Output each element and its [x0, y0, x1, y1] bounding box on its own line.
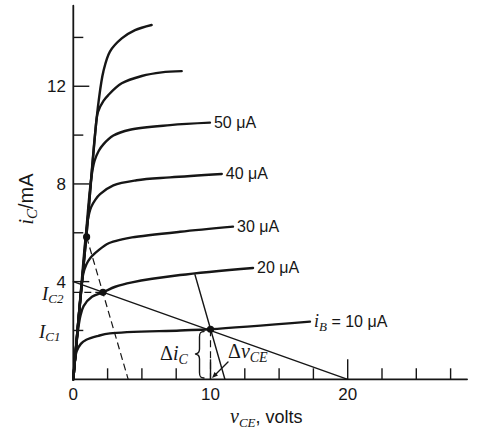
y-axis-label-unit: /mA: [15, 173, 37, 209]
ic2-label-sub: C2: [48, 291, 64, 306]
y-tick-label: 8: [57, 175, 66, 194]
q1-point: [207, 326, 214, 333]
delta-vce-subscript: CE: [250, 350, 268, 365]
x-tick-label: 10: [201, 385, 220, 404]
delta-ic-subscript: C: [178, 352, 188, 367]
x-axis-label-unit: , volts: [256, 407, 303, 427]
x-tick-label: 20: [338, 385, 357, 404]
curve-label-ib-30uA: 30 μA: [237, 218, 279, 235]
curve-label-value: = 10 μA: [327, 313, 388, 330]
upper-dot: [83, 233, 90, 240]
q2-point: [99, 289, 106, 296]
x-axis-label-subscript: CE: [239, 415, 256, 430]
y-tick-label: 4: [57, 273, 66, 292]
delta-vce-variable: v: [241, 340, 250, 362]
curve-label-ib-20uA: 20 μA: [257, 259, 299, 276]
x-axis-label-variable: v: [230, 405, 239, 427]
curve-label-subscript: B: [319, 319, 327, 334]
x-tick-label: 0: [69, 385, 78, 404]
curve-label-ib-50uA: 50 μA: [214, 114, 256, 131]
y-tick-label: 12: [47, 77, 66, 96]
delta-symbol: Δ: [160, 342, 173, 364]
delta-symbol: Δ: [228, 340, 241, 362]
transistor-output-characteristics-chart: 010204812 50 μA40 μA30 μA20 μAiB = 10 μA…: [0, 0, 485, 447]
ic1-label-sub: C1: [45, 329, 60, 344]
curve-label-ib-40uA: 40 μA: [226, 165, 268, 182]
